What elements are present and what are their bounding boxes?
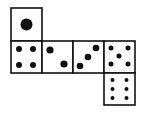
pip-icon	[125, 78, 129, 82]
face-two	[42, 41, 73, 73]
pip-icon	[125, 96, 129, 100]
pip-icon	[16, 46, 22, 52]
pip-icon	[111, 87, 115, 91]
face-border	[104, 73, 135, 105]
pip-icon	[125, 87, 129, 91]
pip-icon	[117, 54, 122, 59]
face-six	[104, 73, 135, 105]
pip-icon	[46, 46, 53, 53]
pip-icon	[85, 54, 92, 61]
pip-icon	[111, 96, 115, 100]
face-border	[11, 41, 42, 73]
pip-icon	[77, 63, 84, 70]
pip-icon	[30, 62, 36, 68]
face-border	[42, 41, 73, 73]
pip-icon	[93, 45, 100, 52]
pip-icon	[111, 78, 115, 82]
pip-icon	[16, 62, 22, 68]
pip-icon	[30, 46, 36, 52]
pip-icon	[126, 62, 131, 67]
pip-icon	[109, 46, 114, 51]
pip-icon	[109, 62, 114, 67]
face-three	[73, 41, 104, 73]
face-one	[11, 8, 42, 41]
face-four	[11, 41, 42, 73]
pip-icon	[126, 46, 131, 51]
pip-icon	[21, 19, 33, 31]
die-net-diagram	[0, 0, 142, 116]
pip-icon	[60, 60, 67, 67]
face-five	[104, 41, 135, 73]
